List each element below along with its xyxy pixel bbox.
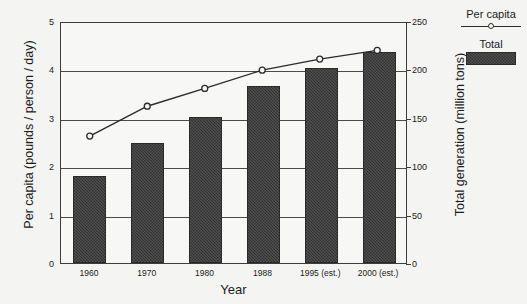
y-axis-right: 050100150200250	[412, 22, 448, 264]
plot-area	[60, 22, 407, 264]
legend-label-total: Total	[455, 38, 527, 50]
line-marker	[317, 56, 323, 62]
legend-label-per-capita: Per capita	[455, 8, 527, 20]
legend-swatch-icon	[466, 52, 516, 65]
y-tick-label-right: 0	[412, 260, 442, 269]
line-marker	[87, 133, 93, 139]
x-tick-label: 2000 (est.)	[358, 268, 399, 278]
line-marker	[374, 47, 380, 53]
x-axis-title: Year	[60, 283, 407, 297]
y-tick-label-left: 0	[28, 260, 54, 269]
legend-line-marker-icon	[455, 21, 527, 31]
x-tick-label: 1988	[253, 268, 272, 278]
legend: Per capita Total	[455, 8, 527, 72]
y-axis-left-title: Per capita (pounds / person / day)	[23, 10, 36, 260]
x-tick-label: 1960	[79, 268, 98, 278]
y-tick-label-right: 50	[412, 211, 442, 220]
y-tick-mark-right	[406, 264, 411, 265]
line-marker	[144, 103, 150, 109]
line-marker	[202, 85, 208, 91]
line-path	[90, 50, 377, 136]
y-tick-label-right: 150	[412, 114, 442, 123]
x-tick-label: 1970	[137, 268, 156, 278]
line-marker	[259, 67, 265, 73]
x-tick-label: 1980	[195, 268, 214, 278]
chart-figure: 012345 050100150200250 19601970198019881…	[0, 0, 527, 304]
legend-entry-per-capita: Per capita	[455, 8, 527, 31]
y-tick-label-right: 100	[412, 163, 442, 172]
x-tick-label: 1995 (est.)	[300, 268, 341, 278]
y-tick-label-right: 250	[412, 18, 442, 27]
line-series-per-capita	[61, 23, 406, 264]
x-axis: 19601970198019881995 (est.)2000 (est.)	[60, 268, 407, 282]
legend-entry-total: Total	[455, 38, 527, 65]
y-tick-label-right: 200	[412, 66, 442, 75]
